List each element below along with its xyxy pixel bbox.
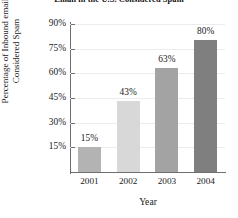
y-axis-title-line1: Percentage of Inbound email [0, 0, 11, 116]
x-axis-tick-label-2002: 2002 [108, 176, 148, 186]
bar-chart-figure: Email in the U.S. Considered Spam Percen… [0, 0, 238, 218]
y-axis-tick-mark [71, 147, 75, 148]
bar-value-label-2004: 80% [186, 27, 226, 36]
x-axis-title: Year [70, 196, 226, 207]
y-axis-tick-label: 90% [26, 19, 66, 28]
bar-2003 [155, 68, 178, 172]
y-axis-title: Percentage of Inbound email Considered S… [0, 0, 26, 116]
bar-2002 [117, 101, 140, 172]
y-axis-title-line2: Considered Spam [11, 0, 22, 116]
plot-area [70, 24, 225, 172]
bar-value-label-2003: 63% [147, 55, 187, 64]
x-axis-line [70, 172, 226, 173]
y-axis-tick-mark [71, 49, 75, 50]
y-axis-tick-labels: 15%30%45%60%75%90% [24, 0, 66, 218]
bar-value-label-2001: 15% [69, 134, 109, 143]
y-axis-tick-label: 15% [26, 142, 66, 151]
x-axis-tick-label-2004: 2004 [186, 176, 226, 186]
x-axis-tick-label-2003: 2003 [147, 176, 187, 186]
y-axis-tick-label: 30% [26, 118, 66, 127]
y-axis-tick-label: 45% [26, 93, 66, 102]
bar-2004 [194, 40, 217, 172]
gridline [70, 24, 225, 25]
y-axis-tick-mark [71, 24, 75, 25]
y-axis-tick-mark [71, 73, 75, 74]
bar-2001 [78, 147, 101, 172]
y-axis-tick-label: 60% [26, 68, 66, 77]
y-axis-tick-label: 75% [26, 44, 66, 53]
y-axis-tick-mark [71, 123, 75, 124]
bar-value-label-2002: 43% [108, 88, 148, 97]
x-axis-tick-label-2001: 2001 [69, 176, 109, 186]
y-axis-tick-mark [71, 98, 75, 99]
